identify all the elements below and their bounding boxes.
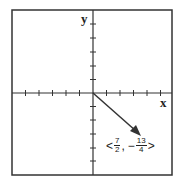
x-axis-label: x	[160, 95, 167, 111]
angle-open: <	[106, 139, 113, 153]
y-component: 13 4	[136, 137, 147, 154]
vector-arrow	[93, 93, 136, 131]
x-component: 7 2	[114, 137, 120, 154]
separator: ,	[121, 139, 124, 153]
vector-label: < 7 2 , − 13 4 >	[106, 137, 155, 154]
negative-sign: −	[128, 139, 135, 153]
y-axis-label: y	[81, 11, 88, 27]
coordinate-plane	[0, 0, 179, 186]
angle-close: >	[148, 139, 155, 153]
